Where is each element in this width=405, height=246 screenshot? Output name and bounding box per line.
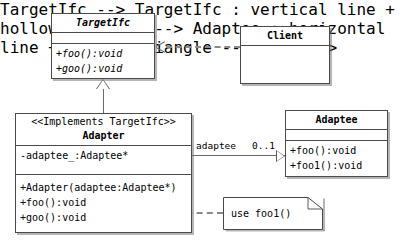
operations-compartment-adaptee: +foo():void +foo1():void [286, 140, 387, 175]
note-text: use foo1() [231, 207, 291, 220]
class-box-targetifc[interactable]: TargetIfc +foo():void +goo():void [51, 13, 155, 79]
class-box-adapter[interactable]: <<Implements TargetIfc>> Adapter -adapte… [15, 113, 192, 233]
operations-compartment-adapter: +Adapter(adaptee:Adaptee*) +foo():void +… [16, 174, 191, 227]
operation-row: +foo():void [290, 143, 384, 158]
realization-arrowhead-icon [97, 80, 109, 89]
class-name-compartment-client: Client [241, 27, 329, 45]
class-name-adaptee: Adaptee [286, 111, 387, 129]
operation-row: +foo():void [20, 195, 188, 210]
class-name-compartment-adapter: <<Implements TargetIfc>> Adapter [16, 114, 191, 145]
attributes-compartment-adaptee [286, 129, 387, 140]
class-name-adapter: Adapter [16, 129, 191, 145]
realization-line-adapter-to-targetifc [103, 89, 104, 113]
operation-row: +foo1():void [290, 158, 384, 173]
class-box-client[interactable]: Client [240, 26, 330, 84]
operation-row: +goo():void [56, 61, 151, 76]
class-name-targetifc: TargetIfc [52, 14, 154, 32]
dependency-client-to-targetifc [166, 46, 240, 48]
attributes-compartment-adapter: -adaptee_:Adaptee* [16, 145, 191, 174]
operations-compartment-targetifc: +foo():void +goo():void [52, 43, 154, 78]
class-box-adaptee[interactable]: Adaptee +foo():void +foo1():void [285, 110, 388, 177]
body-compartment-client [241, 45, 329, 83]
association-multiplicity-label: 0..1 [252, 140, 275, 152]
class-name-compartment-targetifc: TargetIfc [52, 14, 154, 32]
attribute-row: -adaptee_:Adaptee* [20, 148, 188, 163]
class-name-compartment-adaptee: Adaptee [286, 111, 387, 129]
association-role-label: adaptee [196, 140, 236, 152]
class-name-client: Client [241, 27, 329, 45]
uml-class-diagram: TargetIfc --> TargetIfc : vertical line … [0, 0, 405, 246]
operation-row: +Adapter(adaptee:Adaptee*) [20, 180, 188, 195]
association-line-adapter-to-adaptee [192, 155, 285, 156]
dependency-arrowhead-icon [156, 41, 165, 52]
class-stereotype-adapter: <<Implements TargetIfc>> [16, 115, 191, 129]
operation-row: +foo():void [56, 46, 151, 61]
attributes-compartment-targetifc [52, 32, 154, 43]
association-arrowhead-icon [277, 151, 284, 161]
uml-note[interactable]: use foo1() [222, 196, 327, 232]
operation-row: +goo():void [20, 210, 188, 225]
